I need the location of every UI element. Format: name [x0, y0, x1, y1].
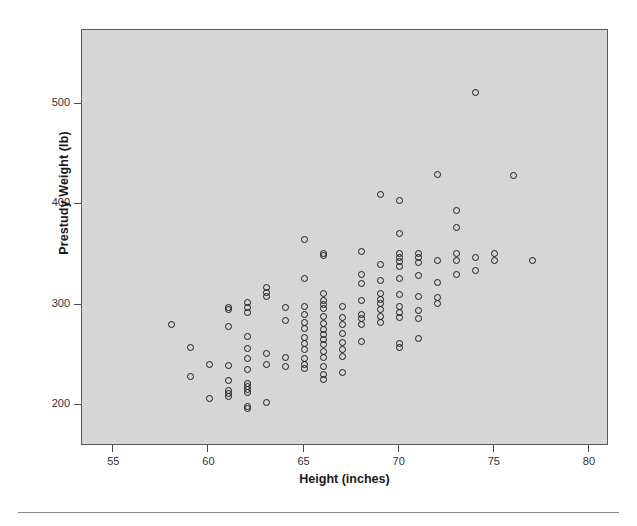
- data-point: [339, 353, 346, 360]
- data-point: [396, 275, 403, 282]
- data-point: [377, 261, 384, 268]
- x-tick-label: 80: [575, 455, 603, 467]
- data-point: [320, 341, 327, 348]
- x-tick-label: 65: [290, 455, 318, 467]
- data-point: [320, 313, 327, 320]
- data-point: [377, 277, 384, 284]
- data-point: [453, 250, 460, 257]
- data-point: [244, 389, 251, 396]
- data-point: [301, 346, 308, 353]
- data-point: [244, 309, 251, 316]
- data-point: [187, 344, 194, 351]
- plot-area: [81, 29, 608, 445]
- data-point: [453, 257, 460, 264]
- data-point: [263, 361, 270, 368]
- data-point: [244, 405, 251, 412]
- x-tick-mark: [493, 445, 494, 452]
- data-point: [415, 307, 422, 314]
- data-point: [491, 250, 498, 257]
- y-tick-label: 200: [52, 397, 70, 409]
- data-point: [263, 350, 270, 357]
- data-point: [415, 335, 422, 342]
- y-axis-title: Prestudy Weight (lb): [57, 83, 71, 303]
- x-tick-mark: [398, 445, 399, 452]
- data-point: [339, 321, 346, 328]
- data-point: [282, 354, 289, 361]
- data-point: [320, 354, 327, 361]
- data-point: [320, 252, 327, 259]
- data-point: [244, 333, 251, 340]
- y-tick-mark: [74, 203, 81, 204]
- data-point: [282, 317, 289, 324]
- data-point: [453, 271, 460, 278]
- x-tick-mark: [112, 445, 113, 452]
- data-point: [434, 300, 441, 307]
- data-point: [263, 293, 270, 300]
- y-tick-mark: [74, 304, 81, 305]
- data-point: [396, 197, 403, 204]
- data-point: [301, 365, 308, 372]
- bottom-divider: [18, 512, 619, 513]
- y-tick-mark: [74, 404, 81, 405]
- data-point: [415, 315, 422, 322]
- data-point: [301, 311, 308, 318]
- data-point: [320, 290, 327, 297]
- x-tick-mark: [207, 445, 208, 452]
- data-point: [339, 369, 346, 376]
- x-tick-label: 55: [99, 455, 127, 467]
- data-point: [339, 339, 346, 346]
- data-point: [434, 279, 441, 286]
- data-point: [225, 306, 232, 313]
- data-point: [453, 207, 460, 214]
- data-point: [206, 395, 213, 402]
- data-point: [434, 257, 441, 264]
- data-point: [358, 271, 365, 278]
- x-tick-label: 60: [194, 455, 222, 467]
- data-point: [453, 224, 460, 231]
- data-point: [529, 257, 536, 264]
- data-point: [358, 321, 365, 328]
- scatter-plot-figure: 200300400500 Prestudy Weight (lb) 556065…: [0, 0, 637, 526]
- x-tick-mark: [303, 445, 304, 452]
- data-point: [396, 263, 403, 270]
- data-point: [244, 366, 251, 373]
- x-tick-label: 75: [480, 455, 508, 467]
- data-point: [377, 306, 384, 313]
- data-point: [472, 267, 479, 274]
- data-point: [301, 236, 308, 243]
- data-point: [415, 259, 422, 266]
- data-point: [320, 305, 327, 312]
- data-point: [225, 362, 232, 369]
- data-point: [491, 257, 498, 264]
- data-point: [339, 330, 346, 337]
- data-point: [187, 373, 194, 380]
- data-point: [282, 304, 289, 311]
- data-point: [339, 346, 346, 353]
- data-point: [168, 321, 175, 328]
- data-point: [301, 275, 308, 282]
- data-point: [225, 393, 232, 400]
- data-point: [339, 314, 346, 321]
- data-point: [320, 363, 327, 370]
- data-point: [377, 319, 384, 326]
- data-point: [396, 314, 403, 321]
- x-tick-mark: [588, 445, 589, 452]
- data-point: [282, 363, 289, 370]
- data-point: [415, 293, 422, 300]
- x-axis-title: Height (inches): [81, 472, 608, 486]
- data-point: [396, 230, 403, 237]
- data-point: [396, 291, 403, 298]
- data-point: [244, 345, 251, 352]
- data-point: [510, 172, 517, 179]
- data-point: [206, 361, 213, 368]
- data-point: [358, 248, 365, 255]
- y-tick-mark: [74, 103, 81, 104]
- x-tick-label: 70: [385, 455, 413, 467]
- data-point: [472, 254, 479, 261]
- data-point: [472, 89, 479, 96]
- data-point: [396, 344, 403, 351]
- data-point: [244, 355, 251, 362]
- data-point: [301, 325, 308, 332]
- data-point: [434, 171, 441, 178]
- data-point: [263, 399, 270, 406]
